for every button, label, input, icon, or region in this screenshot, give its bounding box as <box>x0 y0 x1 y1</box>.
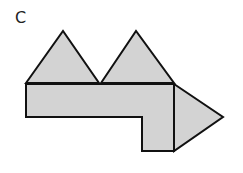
l-shaped-body <box>26 84 174 151</box>
right-arrow-triangle <box>174 84 223 151</box>
left-triangle <box>26 31 99 83</box>
middle-triangle <box>101 31 174 83</box>
composite-shape-diagram <box>0 0 243 173</box>
